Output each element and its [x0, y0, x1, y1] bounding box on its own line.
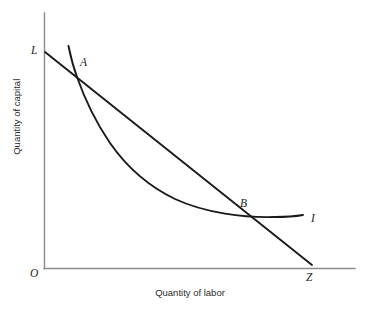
isoquant-isocost-figure: L A B I Z O Quantity of capital Quantity…: [0, 0, 369, 315]
plot-area: [0, 0, 369, 315]
y-axis-title: Quantity of capital: [12, 67, 22, 167]
point-b-label: B: [240, 198, 247, 210]
isocost-top-label: L: [31, 45, 37, 57]
isocost-bottom-label: Z: [306, 272, 312, 284]
point-a-label: A: [80, 57, 87, 69]
origin-label: O: [30, 268, 38, 280]
isoquant-curve: [69, 46, 304, 217]
isocost-line: [45, 52, 312, 265]
x-axis-title: Quantity of labor: [125, 288, 255, 298]
isoquant-right-label: I: [311, 213, 315, 225]
